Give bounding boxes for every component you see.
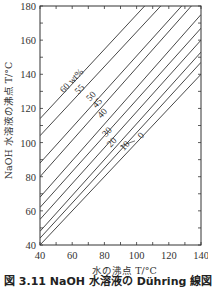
series-label: 0 bbox=[136, 130, 147, 140]
y-axis-title: NaOH 水溶液の沸点 T/°C bbox=[3, 62, 14, 180]
x-tick-label: 40 bbox=[35, 250, 46, 261]
x-axis-ticks: 406080100120140 bbox=[35, 250, 208, 261]
x-tick-label: 100 bbox=[129, 250, 145, 261]
series-line bbox=[40, 15, 201, 198]
series-lines bbox=[40, 6, 201, 245]
y-tick-label: 160 bbox=[20, 35, 36, 46]
figure-caption: 図 3.11 NaOH 水溶液の Dühring 線図 bbox=[4, 272, 208, 288]
y-tick-label: 60 bbox=[26, 206, 37, 217]
x-tick-label: 80 bbox=[99, 250, 110, 261]
y-tick-label: 120 bbox=[20, 103, 36, 114]
x-tick-label: 140 bbox=[193, 250, 208, 261]
y-axis-ticks: 406080100120140160180 bbox=[20, 1, 36, 251]
y-tick-label: 180 bbox=[20, 1, 36, 12]
y-tick-label: 80 bbox=[26, 172, 37, 183]
x-tick-label: 60 bbox=[67, 250, 78, 261]
series-line bbox=[40, 28, 201, 207]
series-line bbox=[40, 74, 201, 245]
x-tick-label: 120 bbox=[161, 250, 177, 261]
series-labels: 60 wt%555045403020100 bbox=[58, 67, 146, 153]
y-tick-label: 100 bbox=[20, 138, 36, 149]
series-line bbox=[40, 40, 201, 219]
y-tick-label: 40 bbox=[26, 240, 37, 251]
y-tick-label: 140 bbox=[20, 69, 36, 80]
